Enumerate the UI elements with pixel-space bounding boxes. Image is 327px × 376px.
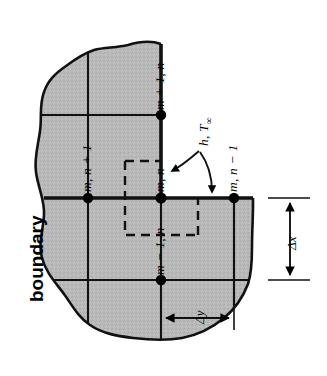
convection-h-t: h, T bbox=[196, 124, 211, 146]
solid-region bbox=[35, 42, 253, 340]
label-delta-x: Δx bbox=[284, 237, 300, 250]
node-m-n-plus-1 bbox=[83, 193, 93, 203]
label-node-m-n-plus-1: m, n + 1 bbox=[79, 145, 95, 192]
convection-arrows bbox=[172, 151, 212, 192]
label-node-m-n: m, n bbox=[152, 168, 168, 192]
convection-arrow-left bbox=[172, 151, 199, 171]
label-node-m-minus-1-n: m − 1, n bbox=[152, 228, 168, 275]
label-convection-condition: h, T∞ bbox=[196, 117, 214, 146]
convection-infinity-subscript: ∞ bbox=[203, 117, 214, 124]
figure-canvas: boundary m + 1, n m, n + 1 m, n m − 1, n… bbox=[0, 0, 327, 376]
boundary-caption: boundary bbox=[26, 215, 48, 302]
label-node-m-n-minus-1: m, n − 1 bbox=[225, 145, 241, 192]
node-m-n-minus-1 bbox=[229, 193, 239, 203]
node-m-minus-1-n bbox=[156, 275, 166, 285]
node-m-plus-1-n bbox=[156, 110, 166, 120]
label-delta-y: Δy bbox=[192, 311, 208, 324]
convection-arrow-down bbox=[200, 152, 212, 192]
label-node-m-plus-1-n: m + 1, n bbox=[152, 63, 168, 110]
node-m-n bbox=[155, 192, 166, 203]
